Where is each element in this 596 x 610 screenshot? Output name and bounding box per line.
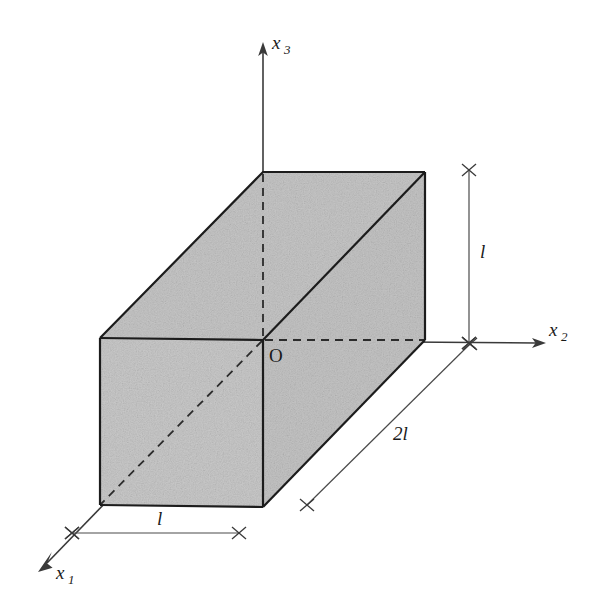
- axis-x1-label-base: x: [55, 562, 65, 583]
- axis-x3-label-base: x: [271, 32, 281, 53]
- origin-label: O: [269, 345, 283, 366]
- axis-x3-label-subscript: 3: [283, 42, 291, 57]
- figure-root: x 3 x 2 x 1 O l 2l l: [0, 0, 596, 610]
- dimension-depth-label: 2l: [393, 423, 408, 444]
- axis-x2-label-base: x: [548, 319, 558, 340]
- dimension-width-label: l: [157, 508, 162, 529]
- axis-x1-label-subscript: 1: [68, 572, 75, 587]
- axis-x2-label-subscript: 2: [561, 329, 568, 344]
- prism-coordinate-diagram: x 3 x 2 x 1 O l 2l l: [0, 0, 596, 610]
- dimension-height-label: l: [480, 241, 485, 262]
